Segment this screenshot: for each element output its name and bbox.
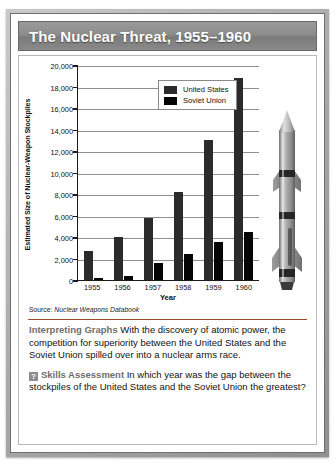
bar [114,237,123,280]
chart-legend: United States Soviet Union [158,80,237,110]
y-axis-tick-label: 8,000 [39,191,73,200]
legend-item-label: United States [183,85,229,94]
y-axis-tick-label: 12,000 [39,148,73,157]
bar [244,232,253,280]
bar [84,251,93,280]
source-lead: Source: [29,306,54,313]
page-title: The Nuclear Threat, 1955–1960 [19,28,251,45]
x-axis-tick-label: 1959 [198,283,228,292]
legend-swatch-icon [164,86,177,94]
skills-assessment-paragraph: ?Skills Assessment In which year was the… [29,369,306,394]
x-axis-tick-label: 1958 [168,283,198,292]
y-axis-tick-label: 2,000 [39,255,73,264]
question-mark-icon: ? [29,372,38,381]
bar [154,263,163,280]
legend-item-label: Soviet Union [183,96,226,105]
x-axis-tick-label: 1957 [138,283,168,292]
bar [184,254,193,280]
legend-swatch-icon [164,97,177,105]
bar [124,276,133,280]
bar [204,140,213,280]
bar-chart: Estimated Size of Nuclear-Weapon Stockpi… [19,56,316,314]
source-note: Source: Nuclear Weapons Databook [29,306,139,313]
x-axis-tick-label: 1955 [77,283,107,292]
section-divider [28,319,307,320]
plot-area: United States Soviet Union [77,66,259,281]
bar [94,278,103,280]
y-axis-title: Estimated Size of Nuclear-Weapon Stockpi… [21,74,35,274]
y-axis-tick-label: 16,000 [39,105,73,114]
y-axis-tick-label: 18,000 [39,83,73,92]
bar [214,242,223,280]
interpreting-graphs-heading: Interpreting Graphs [29,324,118,335]
legend-item: United States [164,85,229,94]
bar-group [108,66,138,280]
y-axis-tick-labels: 02,0004,0006,0008,00010,00012,00014,0001… [35,66,73,281]
y-axis-tick-label: 14,000 [39,126,73,135]
x-axis-tick-label: 1956 [107,283,137,292]
bar [144,218,153,280]
figure-content-card: Estimated Size of Nuclear-Weapon Stockpi… [18,55,317,445]
y-axis-tickmark [73,280,78,282]
y-axis-tick-label: 6,000 [39,212,73,221]
interpreting-graphs-paragraph: Interpreting Graphs With the discovery o… [29,324,306,362]
skills-assessment-heading: Skills Assessment [41,369,124,380]
bar [174,192,183,280]
y-axis-tick-label: 20,000 [39,62,73,71]
y-axis-tick-label: 4,000 [39,234,73,243]
y-axis-tick-label: 10,000 [39,169,73,178]
plot-wrapper: 02,0004,0006,0008,00010,00012,00014,0001… [35,66,263,314]
prose-block: Interpreting Graphs With the discovery o… [29,324,306,401]
x-axis-tick-label: 1960 [229,283,259,292]
figure-title-bar: The Nuclear Threat, 1955–1960 [18,21,317,51]
x-axis-title: Year [77,293,259,302]
y-axis-tick-label: 0 [39,277,73,286]
legend-item: Soviet Union [164,96,229,105]
figure-inner: The Nuclear Threat, 1955–1960 Estimated … [10,13,325,453]
bar-group [78,66,108,280]
figure-frame: The Nuclear Threat, 1955–1960 Estimated … [6,9,329,457]
x-axis-tick-labels: 195519561957195819591960 [77,283,259,292]
y-axis-title-text: Estimated Size of Nuclear-Weapon Stockpi… [24,98,33,250]
source-publication: Nuclear Weapons Databook [54,306,139,313]
missile-illustration-icon [264,108,310,300]
